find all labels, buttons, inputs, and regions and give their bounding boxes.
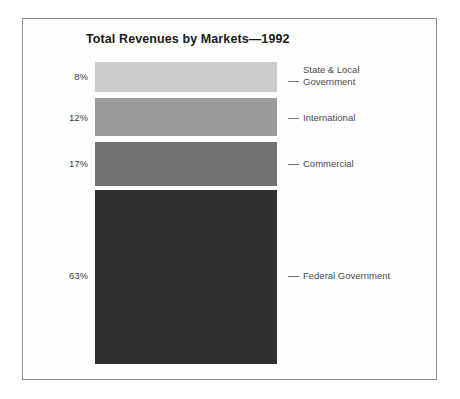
percentage-label-international: 12% xyxy=(48,112,88,123)
bar-segment-international[interactable] xyxy=(95,98,277,136)
percentage-label-federal: 63% xyxy=(48,270,88,281)
chart-title: Total Revenues by Markets—1992 xyxy=(86,32,290,46)
percentage-label-state-local: 8% xyxy=(48,71,88,82)
callout-commercial: Commercial xyxy=(288,158,354,170)
callout-international: International xyxy=(288,112,355,124)
callout-line2-state-local: Government xyxy=(303,76,360,88)
callout-line1-state-local: State & Local xyxy=(303,64,360,75)
callout-text-state-local: State & Local Government xyxy=(303,64,360,87)
leader-dash-icon xyxy=(288,276,299,277)
bar-segment-commercial[interactable] xyxy=(95,142,277,186)
bar-segment-state-local-government[interactable] xyxy=(95,62,277,92)
callout-state-local-government: State & Local Government xyxy=(288,64,360,87)
callout-text-federal: Federal Government xyxy=(303,270,390,282)
callout-text-international: International xyxy=(303,112,355,124)
leader-dash-icon xyxy=(288,164,299,165)
chart-callout-labels: State & Local Government International C… xyxy=(288,62,438,364)
stacked-bar-column xyxy=(95,62,277,364)
leader-dash-icon xyxy=(288,81,299,82)
callout-federal-government: Federal Government xyxy=(288,270,390,282)
bar-segment-federal-government[interactable] xyxy=(95,190,277,364)
leader-dash-icon xyxy=(288,118,299,119)
callout-text-commercial: Commercial xyxy=(303,158,354,170)
percentage-labels: 8% 12% 17% 63% xyxy=(48,62,88,364)
percentage-label-commercial: 17% xyxy=(48,158,88,169)
chart-page: Total Revenues by Markets—1992 8% 12% 17… xyxy=(0,0,460,399)
